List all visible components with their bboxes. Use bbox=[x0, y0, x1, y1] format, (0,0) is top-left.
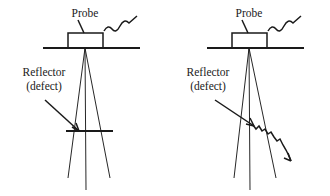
figure-background bbox=[0, 0, 330, 196]
probe-label-left: Probe bbox=[72, 7, 99, 19]
defect-label-right: (defect) bbox=[190, 80, 226, 93]
reflector-label-right: Reflector bbox=[187, 66, 230, 78]
ultrasonic-reflector-figure: Probe Reflector (defect) Probe bbox=[0, 0, 330, 196]
reflector-label-left: Reflector bbox=[23, 66, 66, 78]
probe-label-right: Probe bbox=[236, 7, 263, 19]
defect-label-left: (defect) bbox=[26, 80, 62, 93]
diagram-canvas: Probe Reflector (defect) Probe bbox=[0, 0, 330, 196]
